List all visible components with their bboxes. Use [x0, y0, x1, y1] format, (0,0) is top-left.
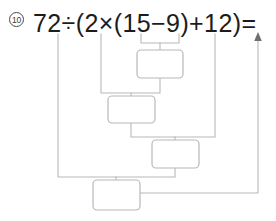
wire-from-72 [58, 34, 116, 177]
answer-box-step-1[interactable] [137, 50, 183, 78]
wire-box2-to-box3 [131, 122, 175, 140]
answer-box-step-3[interactable] [152, 140, 199, 168]
worksheet-problem: 10 72÷(2×(15−9)+12)= [0, 0, 276, 221]
wire-from-2 [101, 34, 131, 93]
answer-box-step-4[interactable] [93, 180, 140, 210]
wire-box3-to-box4 [116, 168, 175, 180]
result-arrow-head [254, 32, 262, 41]
wire-box1-to-box2 [131, 78, 160, 96]
answer-box-step-2[interactable] [108, 96, 155, 123]
bracket-15-minus-9 [141, 34, 179, 43]
wire-from-12 [175, 34, 215, 137]
order-of-operations-diagram [0, 0, 276, 221]
